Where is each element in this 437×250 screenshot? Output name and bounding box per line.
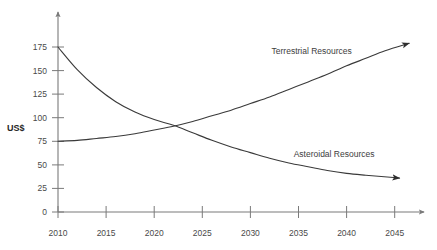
x-tick-labels: 2010 2015 2020 2025 2030 2035 2040 2045 bbox=[49, 228, 405, 238]
x-tick-label-2025: 2025 bbox=[193, 228, 212, 238]
y-tick-labels: 0 25 50 75 100 125 150 175 bbox=[33, 42, 47, 217]
x-tick-label-2030: 2030 bbox=[241, 228, 260, 238]
y-tick-label-150: 150 bbox=[33, 66, 47, 76]
x-tick-label-2040: 2040 bbox=[337, 228, 356, 238]
x-tick-label-2020: 2020 bbox=[145, 228, 164, 238]
y-tick-label-0: 0 bbox=[42, 207, 47, 217]
x-tick-label-2045: 2045 bbox=[385, 228, 404, 238]
y-axis-title: US$ bbox=[7, 123, 25, 133]
y-tick-label-25: 25 bbox=[38, 183, 48, 193]
y-tick-label-75: 75 bbox=[38, 136, 48, 146]
y-tick-label-175: 175 bbox=[33, 42, 47, 52]
x-tick-label-2010: 2010 bbox=[49, 228, 68, 238]
line-chart: 0 25 50 75 100 125 150 175 US$ 2010 2015… bbox=[0, 0, 437, 250]
x-tick-label-2035: 2035 bbox=[289, 228, 308, 238]
y-tick-label-100: 100 bbox=[33, 113, 47, 123]
x-tick-label-2015: 2015 bbox=[97, 228, 116, 238]
series-label-terrestrial-resources: Terrestrial Resources bbox=[272, 46, 352, 56]
series-label-asteroidal-resources: Asteroidal Resources bbox=[294, 149, 375, 159]
chart-container: 0 25 50 75 100 125 150 175 US$ 2010 2015… bbox=[0, 0, 437, 250]
y-tick-label-50: 50 bbox=[38, 160, 48, 170]
y-tick-label-125: 125 bbox=[33, 89, 47, 99]
series-line-terrestrial-resources bbox=[58, 43, 409, 141]
